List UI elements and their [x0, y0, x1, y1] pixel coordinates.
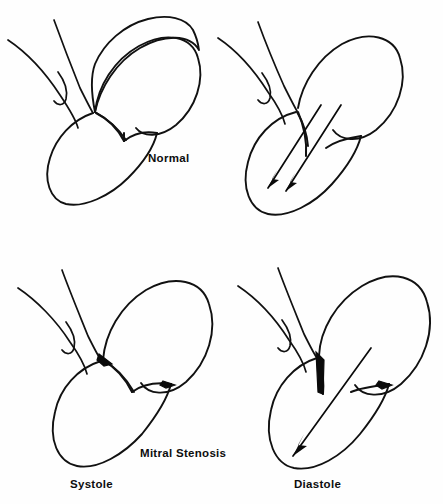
atrium-outline-tr [298, 36, 403, 139]
thickened-leaflet-upper-br [316, 352, 324, 394]
vessel-appendage-tr [258, 73, 271, 104]
panel-bottom-right [238, 268, 430, 469]
panel-bottom-left [18, 270, 212, 467]
heart-valve-diagram: Normal Mitral Stenosis Systole Diastole [0, 0, 443, 504]
vessel-pulmonary-tr [258, 22, 297, 111]
atrium-outline-tl [92, 17, 199, 112]
diagram-linework [0, 0, 443, 504]
thickened-leaflet-lower-br [376, 381, 392, 389]
ventricle-outline-tl [47, 113, 157, 205]
label-mitral-stenosis: Mitral Stenosis [140, 447, 226, 459]
label-diastole: Diastole [294, 478, 341, 490]
ventricle-outline-br [269, 358, 389, 469]
vessel-appendage-bl [62, 322, 75, 354]
vessel-pulmonary-bl [62, 270, 101, 360]
vessel-aorta-tr [218, 38, 285, 124]
valve-leaflet-anterior-tl [96, 113, 124, 141]
thickened-leaflet-lower-bl [160, 381, 175, 388]
vessel-aorta-br [238, 286, 306, 372]
label-systole: Systole [70, 478, 113, 490]
panel-top-right [218, 22, 403, 215]
valve-leaflet-posterior-tl [124, 132, 157, 141]
vessel-aorta-tl [8, 40, 78, 128]
vessel-appendage-br [278, 320, 291, 352]
vessel-pulmonary-br [278, 268, 317, 358]
atrium-outline-br [319, 276, 430, 394]
atrium-dome-tl [95, 37, 200, 134]
label-normal: Normal [148, 152, 189, 164]
panel-top-left [8, 17, 200, 205]
thickened-leaflet-upper-bl [97, 354, 112, 366]
vessel-aorta-bl [18, 288, 87, 374]
blood-flow-arrow-1-tr [268, 105, 321, 188]
atrium-outline-bl [103, 281, 212, 393]
valve-leaflet-anterior-bl [104, 361, 132, 392]
vessel-pulmonary-tl [54, 20, 93, 113]
